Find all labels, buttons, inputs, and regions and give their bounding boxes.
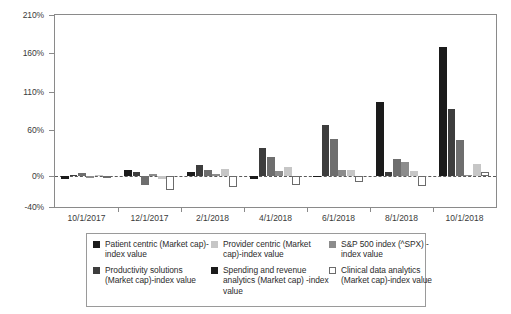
bar[interactable] [284,167,292,176]
x-axis-tick-mark [118,207,119,212]
bar[interactable] [229,176,237,187]
x-axis-tick-label: 12/1/2017 [131,213,169,223]
y-axis-tick-mark [49,53,54,54]
legend-swatch-icon [211,241,218,248]
bar-group [124,15,174,207]
x-axis-tick-label: 8/1/2018 [385,213,418,223]
bar[interactable] [212,174,220,176]
legend-item[interactable]: Productivity solutions (Market cap)-inde… [93,265,211,296]
bar[interactable] [158,176,166,178]
bar[interactable] [196,165,204,177]
legend-grid: Patient centric (Market cap)-index value… [93,239,421,304]
bar-group [61,15,111,207]
bar[interactable] [103,176,111,178]
bar[interactable] [250,176,258,178]
legend-label: S&P 500 index (^SPX) -index value [341,239,433,260]
bar[interactable] [330,139,338,176]
bar[interactable] [61,176,69,178]
bar[interactable] [456,140,464,176]
x-axis-tick-label: 6/1/2018 [322,213,355,223]
legend-item[interactable]: S&P 500 index (^SPX) -index value [329,239,433,260]
y-axis-tick-label: 60% [0,125,44,135]
x-axis-tick-mark [370,207,371,212]
bar[interactable] [166,176,174,190]
bar[interactable] [439,47,447,176]
y-axis-tick-mark [49,15,54,16]
legend-label: Clinical data analytics (Market cap)-ind… [341,265,433,286]
legend-item[interactable]: Spending and revenue analytics (Market c… [211,265,329,296]
bar-group [376,15,426,207]
bar[interactable] [259,148,267,176]
legend-swatch-icon [93,241,100,248]
x-axis-tick-mark [181,207,182,212]
x-axis-tick-mark [244,207,245,212]
legend-swatch-icon [93,267,100,274]
y-axis-tick-label: -40% [0,202,44,212]
x-axis-tick-mark [307,207,308,212]
bar[interactable] [133,172,141,176]
bar[interactable] [86,176,94,178]
x-axis-tick-mark [433,207,434,212]
x-axis-tick-label: 10/1/2017 [68,213,106,223]
bar[interactable] [267,157,275,176]
bar[interactable] [95,175,103,177]
legend-swatch-icon [329,267,336,274]
bar[interactable] [338,170,346,176]
y-axis-tick-mark [49,130,54,131]
x-axis-tick-label: 10/1/2018 [446,213,484,223]
legend-swatch-icon [211,267,218,274]
y-axis-tick-label: 160% [0,48,44,58]
chart-legend: Patient centric (Market cap)-index value… [86,233,426,307]
y-axis-tick-label: 210% [0,10,44,20]
legend-item[interactable]: Provider centric (Market cap)-index valu… [211,239,329,260]
bar[interactable] [204,170,212,176]
bar-group [250,15,300,207]
bar[interactable] [292,176,300,185]
bar[interactable] [448,109,456,177]
y-axis-tick-mark [49,92,54,93]
bar[interactable] [313,176,321,177]
bar-group [439,15,489,207]
legend-label: Provider centric (Market cap)-index valu… [223,239,329,260]
bar[interactable] [322,125,330,176]
legend-swatch-icon [329,241,336,248]
bar[interactable] [385,172,393,176]
bar[interactable] [418,176,426,186]
bar[interactable] [347,170,355,176]
bar[interactable] [464,175,472,177]
bar[interactable] [393,159,401,176]
bar[interactable] [221,169,229,177]
legend-label: Patient centric (Market cap)-index value [105,239,211,260]
bar[interactable] [149,174,157,176]
bar[interactable] [481,172,489,176]
bar[interactable] [70,175,78,177]
bar[interactable] [355,176,363,182]
legend-item[interactable]: Patient centric (Market cap)-index value [93,239,211,260]
bar[interactable] [376,102,384,176]
bar-group [187,15,237,207]
x-axis-tick-label: 2/1/2018 [196,213,229,223]
y-axis-tick-label: 110% [0,87,44,97]
plot-area [55,15,496,207]
bar[interactable] [78,173,86,176]
bar-group [313,15,363,207]
legend-label: Spending and revenue analytics (Market c… [223,265,329,296]
y-axis-tick-mark [49,176,54,177]
bar[interactable] [187,172,195,176]
y-axis-tick-mark [49,207,54,208]
legend-item[interactable]: Clinical data analytics (Market cap)-ind… [329,265,433,296]
bar[interactable] [401,162,409,176]
x-axis-tick-label: 4/1/2018 [259,213,292,223]
bar[interactable] [473,164,481,176]
legend-label: Productivity solutions (Market cap)-inde… [105,265,211,286]
chart-figure: 210%160%110%60%0%-40% 10/1/201712/1/2017… [0,0,511,314]
bar[interactable] [141,176,149,185]
bar[interactable] [275,171,283,176]
bar[interactable] [410,171,418,176]
y-axis-tick-label: 0% [0,171,44,181]
bar[interactable] [124,170,132,176]
